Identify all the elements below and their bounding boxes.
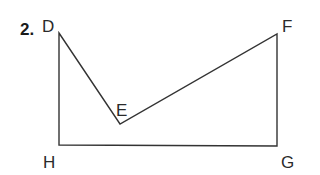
polygon-defgh bbox=[59, 33, 277, 146]
vertex-label-f: F bbox=[282, 18, 292, 35]
vertex-label-e: E bbox=[116, 102, 127, 119]
vertex-label-d: D bbox=[42, 18, 54, 35]
vertex-label-h: H bbox=[43, 154, 55, 171]
vertex-label-g: G bbox=[281, 154, 294, 171]
